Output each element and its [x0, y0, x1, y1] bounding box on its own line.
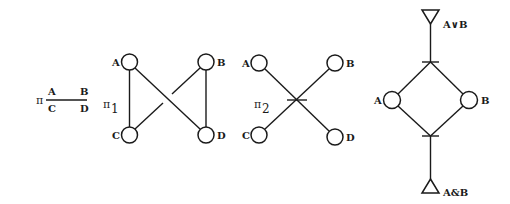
node-a-label: A — [111, 57, 120, 68]
pi2-symbol: π — [254, 98, 261, 111]
node-c-label: C — [112, 130, 120, 141]
partition-label-d: D — [80, 103, 89, 114]
node-b-label: B — [346, 58, 354, 69]
node-d-label: D — [217, 130, 226, 141]
edge-join-a — [398, 62, 431, 94]
pi-symbol: π — [36, 94, 43, 107]
lattice-right-label: B — [481, 95, 489, 106]
partition-label-c: C — [48, 103, 56, 114]
pi2-subscript: 2 — [262, 102, 270, 116]
edge-b-meet — [431, 106, 464, 136]
node-a — [122, 54, 138, 70]
lattice-bottom-label: A&B — [442, 187, 468, 198]
edge-join-b — [431, 62, 464, 94]
diagram-canvas: π A B C D π 1 A B C D π 2 — [0, 0, 510, 204]
pi1-symbol: π — [103, 98, 110, 111]
lattice-left-label: A — [373, 95, 382, 106]
edge-a-meet — [398, 106, 431, 136]
node-b — [327, 55, 343, 71]
partition-label-a: A — [47, 86, 56, 97]
bottom-triangle-icon — [422, 179, 439, 193]
graph-pi1: π 1 A B C D — [103, 54, 226, 143]
edge-b-c-lower — [135, 103, 163, 129]
node-a — [384, 92, 401, 109]
node-b-label: B — [217, 57, 225, 68]
node-d — [198, 127, 214, 143]
node-b — [198, 54, 214, 70]
node-c — [122, 127, 138, 143]
lattice: A∨B A&B A B — [373, 10, 489, 198]
lattice-top-label: A∨B — [442, 19, 467, 30]
partition-pi: π A B C D — [36, 86, 89, 114]
graph-pi2: π 2 A B C D — [241, 55, 355, 145]
node-c — [251, 127, 267, 143]
node-a-label: A — [241, 58, 250, 69]
edge-b-c-upper — [172, 68, 200, 94]
pi1-subscript: 1 — [111, 102, 119, 116]
top-triangle-icon — [422, 10, 439, 24]
node-d — [327, 129, 343, 145]
node-d-label: D — [346, 132, 355, 143]
node-b — [461, 92, 478, 109]
partition-label-b: B — [80, 86, 88, 97]
node-c-label: C — [242, 130, 250, 141]
node-a — [251, 55, 267, 71]
